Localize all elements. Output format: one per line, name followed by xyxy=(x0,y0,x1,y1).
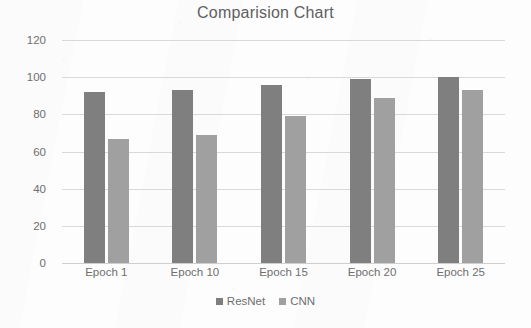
x-axis-tick-label: Epoch 20 xyxy=(348,266,397,278)
x-axis-tick-label: Epoch 25 xyxy=(436,266,485,278)
bar-group xyxy=(62,40,151,263)
x-axis-tick-label: Epoch 15 xyxy=(259,266,308,278)
bar-resnet-epoch-1[interactable] xyxy=(84,92,105,263)
bar-group xyxy=(239,40,328,263)
y-axis-tick-label: 40 xyxy=(33,183,46,195)
legend-item-resnet[interactable]: ResNet xyxy=(216,295,265,307)
comparison-bar-chart: Comparision Chart 020406080100120 Epoch … xyxy=(0,0,531,328)
bar-group xyxy=(328,40,417,263)
bar-cnn-epoch-25[interactable] xyxy=(462,90,483,263)
bars-layer xyxy=(62,40,505,263)
y-axis-tick-label: 80 xyxy=(33,108,46,120)
bar-resnet-epoch-15[interactable] xyxy=(261,85,282,263)
bar-resnet-epoch-25[interactable] xyxy=(438,77,459,263)
bar-cnn-epoch-15[interactable] xyxy=(285,116,306,263)
bar-cnn-epoch-1[interactable] xyxy=(108,139,129,264)
legend-label: ResNet xyxy=(227,295,265,307)
bar-cnn-epoch-10[interactable] xyxy=(196,135,217,263)
bar-cnn-epoch-20[interactable] xyxy=(374,98,395,263)
chart-title: Comparision Chart xyxy=(0,4,531,22)
bar-resnet-epoch-10[interactable] xyxy=(172,90,193,263)
bar-group xyxy=(416,40,505,263)
x-axis-tick-label: Epoch 1 xyxy=(85,266,127,278)
bar-group xyxy=(151,40,240,263)
x-axis-tick-label: Epoch 10 xyxy=(171,266,220,278)
bar-resnet-epoch-20[interactable] xyxy=(350,79,371,263)
y-axis: 020406080100120 xyxy=(0,40,54,263)
legend-label: CNN xyxy=(290,295,315,307)
y-axis-tick-label: 0 xyxy=(40,257,46,269)
x-axis: Epoch 1Epoch 10Epoch 15Epoch 20Epoch 25 xyxy=(62,266,505,286)
gridline xyxy=(62,263,505,264)
y-axis-tick-label: 100 xyxy=(27,71,46,83)
legend-swatch-icon xyxy=(216,298,223,305)
legend-item-cnn[interactable]: CNN xyxy=(279,295,315,307)
y-axis-tick-label: 120 xyxy=(27,34,46,46)
legend-swatch-icon xyxy=(279,298,286,305)
y-axis-tick-label: 60 xyxy=(33,146,46,158)
chart-legend: ResNetCNN xyxy=(0,295,531,307)
y-axis-tick-label: 20 xyxy=(33,220,46,232)
